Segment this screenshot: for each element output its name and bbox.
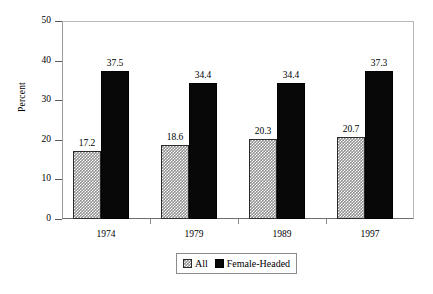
y-axis-tick-label: 50 xyxy=(42,14,52,26)
bar-value-label: 18.6 xyxy=(145,131,205,143)
y-axis-tick: 0 xyxy=(0,219,62,220)
chart-legend: AllFemale-Headed xyxy=(176,253,297,274)
y-axis-tick-mark xyxy=(55,179,62,180)
y-axis-tick-label: 10 xyxy=(42,172,52,184)
bar-value-label: 17.2 xyxy=(57,137,117,149)
bar-value-label: 20.3 xyxy=(233,125,293,137)
x-axis-tick-label: 1979 xyxy=(154,228,234,241)
y-axis-tick: 20 xyxy=(0,140,62,141)
y-axis-tick: 10 xyxy=(0,179,62,180)
bar-chart: Percent 01020304050 1974197919891997 17.… xyxy=(0,0,433,294)
x-axis-tick-label: 1974 xyxy=(66,228,146,241)
bar-1997-female-headed xyxy=(365,71,393,219)
y-axis-tick-mark xyxy=(55,61,62,62)
y-axis-tick-label: 30 xyxy=(42,93,52,105)
x-axis-tick-mark xyxy=(150,219,151,224)
legend-label: Female-Headed xyxy=(227,258,290,270)
x-axis-tick-mark xyxy=(326,219,327,224)
bar-value-label: 34.4 xyxy=(261,69,321,81)
bar-value-label: 20.7 xyxy=(321,123,381,135)
hatched-gray-swatch xyxy=(183,259,192,268)
y-axis-tick-mark xyxy=(55,21,62,22)
y-axis-tick-mark xyxy=(55,219,62,220)
legend-entry-female-headed[interactable]: Female-Headed xyxy=(215,258,290,270)
x-axis-tick-label: 1989 xyxy=(242,228,322,241)
x-axis-tick-mark xyxy=(238,219,239,224)
legend-entry-all[interactable]: All xyxy=(183,258,208,270)
y-axis-title: Percent xyxy=(17,67,27,127)
x-axis-tick-label: 1997 xyxy=(330,228,410,241)
y-axis-tick-mark xyxy=(55,100,62,101)
bar-value-label: 34.4 xyxy=(173,69,233,81)
bar-1989-female-headed xyxy=(277,83,305,219)
bar-1979-female-headed xyxy=(189,83,217,219)
y-axis-tick: 30 xyxy=(0,100,62,101)
bar-1989-all xyxy=(249,139,277,219)
y-axis-tick-label: 40 xyxy=(42,54,52,66)
legend-label: All xyxy=(195,258,208,270)
y-axis-tick-label: 0 xyxy=(46,212,51,224)
y-axis-tick: 40 xyxy=(0,61,62,62)
bar-1979-all xyxy=(161,145,189,219)
bar-1974-all xyxy=(73,151,101,219)
bar-value-label: 37.5 xyxy=(85,57,145,69)
y-axis-tick: 50 xyxy=(0,21,62,22)
bar-value-label: 37.3 xyxy=(349,57,409,69)
bar-1997-all xyxy=(337,137,365,219)
y-axis-tick-label: 20 xyxy=(42,133,52,145)
solid-black-swatch xyxy=(215,259,224,268)
